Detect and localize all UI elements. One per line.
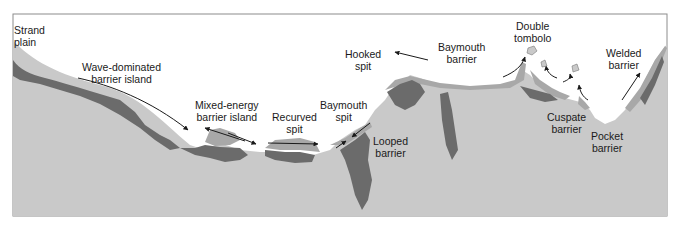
label-hooked-spit: Hooked spit	[345, 48, 381, 72]
label-mixed-energy-barrier-island: Mixed-energy barrier island	[195, 99, 259, 123]
label-strand-plain: Strand plain	[14, 24, 45, 48]
label-cuspate-barrier: Cuspate barrier	[547, 111, 586, 135]
label-baymouth-barrier: Baymouth barrier	[438, 41, 485, 65]
label-looped-barrier: Looped barrier	[373, 135, 408, 159]
label-double-tombolo: Double tombolo	[514, 20, 551, 44]
label-pocket-barrier: Pocket barrier	[591, 130, 623, 154]
label-wave-dominated-barrier-island: Wave-dominated barrier island	[82, 61, 161, 85]
label-recurved-spit: Recurved spit	[272, 111, 317, 135]
label-baymouth-spit: Baymouth spit	[320, 99, 367, 123]
label-welded-barrier: Welded barrier	[606, 47, 641, 71]
